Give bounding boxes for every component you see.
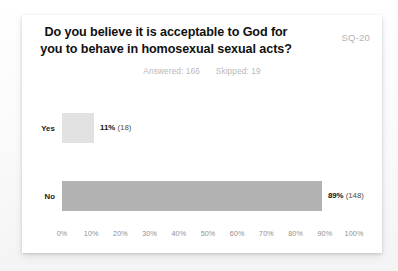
- axis-tick-40pct: 40%: [171, 229, 186, 238]
- bar-value-no: 89% (148): [328, 191, 364, 200]
- category-label-yes: Yes: [22, 124, 55, 133]
- bar-no: [62, 181, 322, 211]
- bar-count-no: (148): [346, 191, 364, 200]
- bar-row-no: No 89% (148): [22, 181, 382, 211]
- title-line-1: Do you believe it is acceptable to God f…: [30, 24, 302, 41]
- bar-chart: Yes 11% (18) No 89% (148) 0%10%20%30%40%…: [22, 77, 382, 253]
- card-header: Do you believe it is acceptable to God f…: [22, 15, 382, 77]
- x-axis: 0%10%20%30%40%50%60%70%80%90%100%: [62, 229, 354, 243]
- bar-percent-no: 89%: [328, 191, 344, 200]
- bar-row-yes: Yes 11% (18): [22, 113, 382, 143]
- axis-tick-80pct: 80%: [288, 229, 303, 238]
- category-label-no: No: [22, 192, 55, 201]
- bar-count-yes: (18): [117, 123, 131, 132]
- axis-tick-90pct: 90%: [317, 229, 332, 238]
- axis-tick-10pct: 10%: [84, 229, 99, 238]
- axis-tick-60pct: 60%: [230, 229, 245, 238]
- response-summary: Answered: 166 Skipped: 19: [22, 66, 382, 76]
- axis-tick-0pct: 0%: [57, 229, 68, 238]
- axis-tick-50pct: 50%: [201, 229, 216, 238]
- bar-value-yes: 11% (18): [100, 123, 131, 132]
- bar-percent-yes: 11%: [100, 123, 115, 132]
- answered-count: Answered: 166: [143, 66, 200, 76]
- survey-result-card: Do you believe it is acceptable to God f…: [22, 15, 382, 253]
- axis-tick-100pct: 100%: [345, 229, 364, 238]
- question-id-badge: SQ-20: [342, 32, 370, 43]
- axis-tick-70pct: 70%: [259, 229, 274, 238]
- page-title: Do you believe it is acceptable to God f…: [30, 24, 302, 57]
- axis-tick-20pct: 20%: [113, 229, 128, 238]
- skipped-count: Skipped: 19: [216, 66, 261, 76]
- axis-tick-30pct: 30%: [142, 229, 157, 238]
- title-line-2: you to behave in homosexual sexual acts?: [30, 41, 302, 58]
- bar-yes: [62, 113, 94, 143]
